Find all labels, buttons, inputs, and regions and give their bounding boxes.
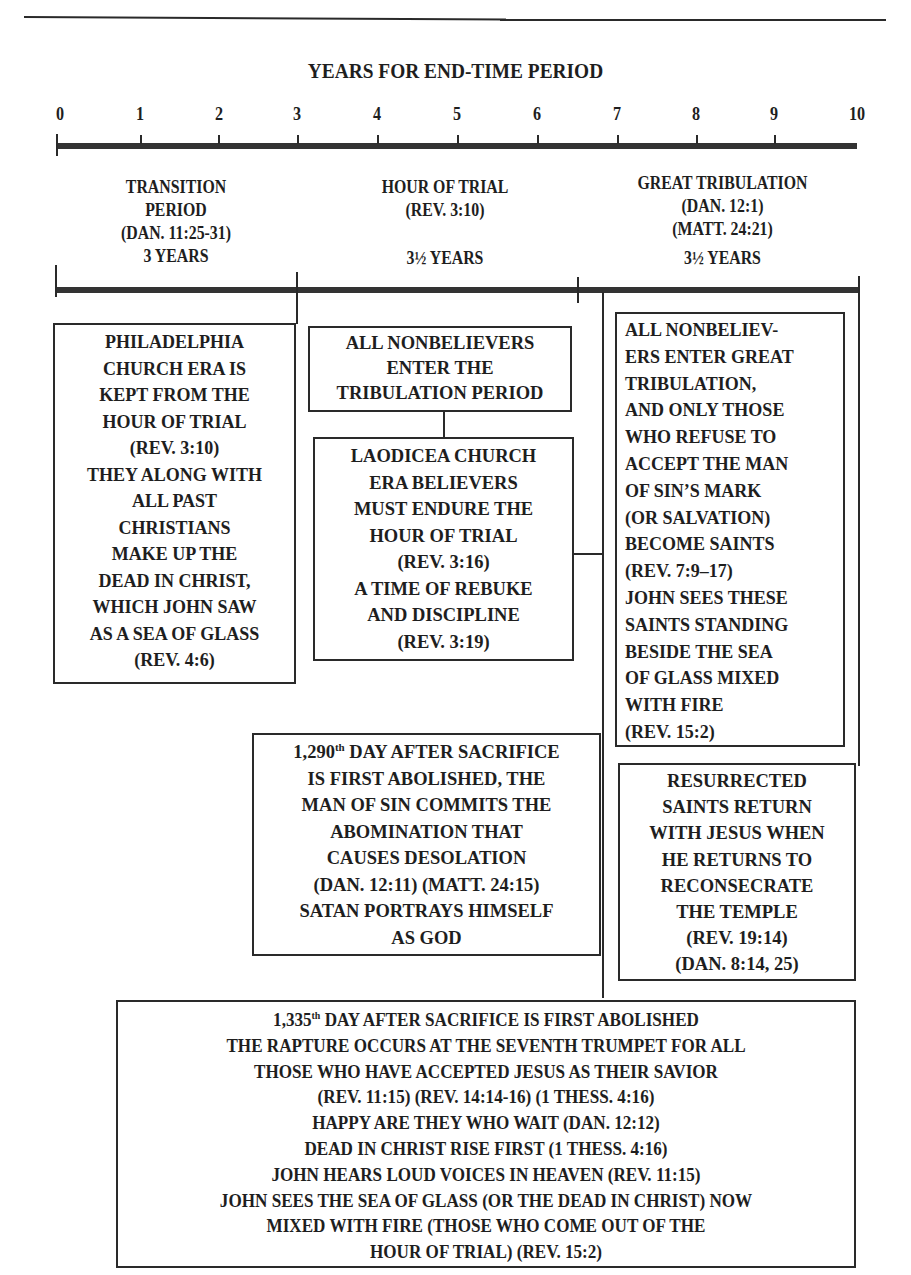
line: ALL NONBELIEVERS — [310, 331, 570, 356]
tick-label-5: 5 — [444, 103, 470, 125]
line: ERS ENTER GREAT — [625, 344, 843, 371]
period-transition-name-2: PERIOD — [88, 199, 264, 222]
line: (REV. 7:9–17) — [625, 558, 843, 585]
tick-2 — [218, 135, 220, 144]
tick-label-7: 7 — [604, 103, 630, 125]
line: (OR SALVATION) — [625, 505, 843, 532]
line: ACCEPT THE MAN — [625, 451, 843, 478]
line: WITH FIRE — [625, 692, 843, 719]
line: WHO REFUSE TO — [625, 424, 843, 451]
day-1290-box: 1,290th DAY AFTER SACRIFICE IS FIRST ABO… — [252, 733, 601, 956]
chart-title: YEARS FOR END-TIME PERIOD — [55, 58, 857, 84]
line: HOUR OF TRIAL) (REV. 15:2) — [155, 1239, 817, 1265]
line: MUST ENDURE THE — [315, 496, 572, 523]
period-hour-ref: (REV. 3:10) — [348, 199, 542, 222]
period-transition-name-1: TRANSITION — [88, 176, 264, 199]
line: AND ONLY THOSE — [625, 397, 843, 424]
period-hour-of-trial: HOUR OF TRIAL (REV. 3:10) 3½ YEARS — [348, 176, 542, 270]
line: SATAN PORTRAYS HIMSELF — [254, 898, 599, 925]
period-gt-ref-1: (DAN. 12:1) — [606, 195, 839, 218]
tick-label-4: 4 — [364, 103, 390, 125]
philadelphia-box: PHILADELPHIA CHURCH ERA IS KEPT FROM THE… — [53, 323, 296, 684]
line: (DAN. 8:14, 25) — [620, 951, 854, 977]
tick-6 — [537, 135, 539, 144]
line: (REV. 11:15) (REV. 14:14-16) (1 THESS. 4… — [155, 1084, 817, 1110]
line: JOHN SEES THESE — [625, 585, 843, 612]
period-divider-6-5 — [577, 277, 579, 303]
line: BESIDE THE SEA — [625, 639, 843, 666]
line: HOUR OF TRIAL — [315, 523, 572, 550]
line: DEAD IN CHRIST, — [55, 568, 294, 595]
period-transition-ref: (DAN. 11:25-31) — [88, 222, 264, 245]
period-transition-duration: 3 YEARS — [88, 245, 264, 268]
ordinal-suffix: th — [335, 741, 345, 753]
period-gt-ref-2: (MATT. 24:21) — [606, 218, 839, 241]
line: WHICH JOHN SAW — [55, 594, 294, 621]
tick-8 — [696, 135, 698, 144]
line: (REV. 3:10) — [55, 435, 294, 462]
line: TRIBULATION PERIOD — [310, 381, 570, 406]
line: ALL NONBELIEV- — [625, 317, 843, 344]
ruler-endcap-left — [56, 134, 58, 156]
line: THE TEMPLE — [620, 899, 854, 925]
line: ALL PAST — [55, 488, 294, 515]
line: MAKE UP THE — [55, 541, 294, 568]
line: (DAN. 12:11) (MATT. 24:15) — [254, 872, 599, 899]
main-connector — [602, 292, 604, 998]
period-transition: TRANSITION PERIOD (DAN. 11:25-31) 3 YEAR… — [88, 176, 264, 268]
line: SAINTS STANDING — [625, 612, 843, 639]
tick-label-10: 10 — [844, 103, 870, 125]
line: (REV. 15:2) — [625, 719, 843, 746]
tick-label-6: 6 — [524, 103, 550, 125]
line: TRIBULATION, — [625, 371, 843, 398]
period-gt-name: GREAT TRIBULATION — [606, 172, 839, 195]
period-divider-3 — [296, 272, 298, 324]
line: ABOMINATION THAT — [254, 819, 599, 846]
line: PHILADELPHIA — [55, 329, 294, 356]
line-first: 1,335th DAY AFTER SACRIFICE IS FIRST ABO… — [155, 1007, 817, 1033]
line: (REV. 19:14) — [620, 925, 854, 951]
line: DEAD IN CHRIST RISE FIRST (1 THESS. 4:16… — [155, 1136, 817, 1162]
period-divider-start — [55, 265, 57, 297]
line: OF GLASS MIXED — [625, 665, 843, 692]
line: AS GOD — [254, 925, 599, 952]
connector-nonbelievers-to-laodicea — [443, 411, 445, 438]
line: WITH JESUS WHEN — [620, 820, 854, 846]
tick-label-2: 2 — [206, 103, 232, 125]
great-tribulation-saints-box: ALL NONBELIEV- ERS ENTER GREAT TRIBULATI… — [615, 312, 845, 747]
line: AS A SEA OF GLASS — [55, 621, 294, 648]
tick-label-9: 9 — [761, 103, 787, 125]
page-header-rule — [24, 16, 506, 21]
tick-1 — [140, 135, 142, 144]
tick-label-3: 3 — [284, 103, 310, 125]
laodicea-box: LAODICEA CHURCH ERA BELIEVERS MUST ENDUR… — [313, 437, 574, 661]
line: RESURRECTED — [620, 768, 854, 794]
first-line-rest: DAY AFTER SACRIFICE — [345, 742, 560, 762]
period-bar — [56, 287, 860, 293]
resurrected-saints-box: RESURRECTED SAINTS RETURN WITH JESUS WHE… — [618, 763, 856, 981]
line: THEY ALONG WITH — [55, 462, 294, 489]
line: BECOME SAINTS — [625, 531, 843, 558]
page-header-rule-right — [500, 19, 886, 21]
tick-4 — [377, 135, 379, 144]
line: (REV. 3:16) — [315, 549, 572, 576]
nonbelievers-enter-box: ALL NONBELIEVERS ENTER THE TRIBULATION P… — [308, 326, 572, 412]
line: AND DISCIPLINE — [315, 602, 572, 629]
tick-3 — [297, 135, 299, 144]
period-divider-end — [858, 276, 860, 766]
line: A TIME OF REBUKE — [315, 576, 572, 603]
line-first: 1,290th DAY AFTER SACRIFICE — [254, 739, 599, 766]
connector-laodicea-to-main — [573, 553, 603, 555]
line: MAN OF SIN COMMITS THE — [254, 792, 599, 819]
line: ERA BELIEVERS — [315, 470, 572, 497]
line: LAODICEA CHURCH — [315, 443, 572, 470]
line: CHURCH ERA IS — [55, 356, 294, 383]
period-hour-name: HOUR OF TRIAL — [348, 176, 542, 199]
tick-7 — [617, 135, 619, 144]
line: ENTER THE — [310, 356, 570, 381]
line: HAPPY ARE THEY WHO WAIT (DAN. 12:12) — [155, 1110, 817, 1136]
line: MIXED WITH FIRE (THOSE WHO COME OUT OF T… — [155, 1213, 817, 1239]
spacer — [348, 222, 542, 245]
ordinal-suffix: th — [312, 1009, 321, 1021]
tick-9 — [774, 135, 776, 144]
